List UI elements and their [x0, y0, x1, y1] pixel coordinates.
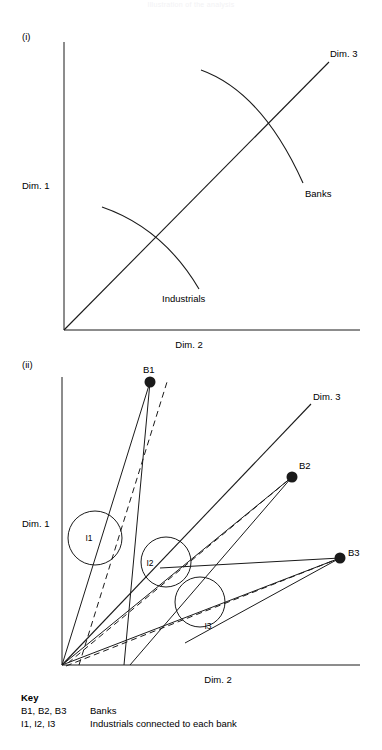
panel-ii-b2-edge-lower [130, 477, 292, 665]
panel-i-dim3-label: Dim. 3 [330, 48, 357, 59]
key-row-1-meaning: Industrials connected to each bank [90, 718, 237, 729]
panel-ii-node-b3-label: B3 [348, 547, 360, 558]
panel-i-x-axis-label: Dim. 2 [175, 339, 202, 350]
panel-ii-b1-dashed [79, 382, 167, 665]
key-block: Key B1, B2, B3 Banks I1, I2, I3 Industri… [21, 692, 237, 729]
panel-ii-cluster-i2-label: I2 [146, 558, 153, 568]
panel-i-dim3-line [64, 62, 329, 330]
panel-ii-node-b2-label: B2 [299, 460, 311, 471]
panel-ii-dim3-label: Dim. 3 [313, 391, 340, 402]
panel-i-y-axis-label: Dim. 1 [22, 180, 49, 191]
panel-ii-x-axis-label: Dim. 2 [204, 674, 231, 685]
panel-ii-node-b1-label: B1 [143, 364, 155, 375]
panel-ii-node-b1[interactable] [145, 377, 156, 388]
panel-i: (i) Dim. 3 Banks Industrials Dim. 1 Dim.… [22, 31, 360, 350]
panel-i-tag: (i) [22, 31, 30, 42]
panel-i-industrials-label: Industrials [162, 293, 206, 304]
panel-i-banks-label: Banks [305, 188, 332, 199]
key-row-0-meaning: Banks [90, 705, 117, 716]
panel-ii: (ii) Dim. 3 I1 I2 I3 B1 B2 B3 [22, 359, 360, 685]
panel-ii-cluster-i1 [68, 511, 122, 565]
panel-ii-tag: (ii) [22, 359, 33, 370]
panel-ii-node-b3[interactable] [335, 553, 346, 564]
panel-i-banks-curve [201, 70, 303, 183]
panel-ii-cluster-i1-label: I1 [85, 533, 92, 543]
key-row-0-symbols: B1, B2, B3 [21, 705, 66, 716]
panel-ii-cluster-i3-label: I3 [204, 621, 211, 631]
panel-ii-b2-edge-upper [62, 477, 292, 665]
key-title: Key [21, 692, 39, 703]
panel-ii-b3-edge-upper [62, 558, 340, 665]
panel-ii-node-b2[interactable] [287, 472, 298, 483]
key-row-1-symbols: I1, I2, I3 [21, 718, 55, 729]
figure-container: (i) Dim. 3 Banks Industrials Dim. 1 Dim.… [0, 0, 382, 750]
panel-ii-y-axis-label: Dim. 1 [22, 518, 49, 529]
panel-ii-dim3-line [62, 404, 311, 665]
figure-svg: (i) Dim. 3 Banks Industrials Dim. 1 Dim.… [0, 0, 382, 750]
